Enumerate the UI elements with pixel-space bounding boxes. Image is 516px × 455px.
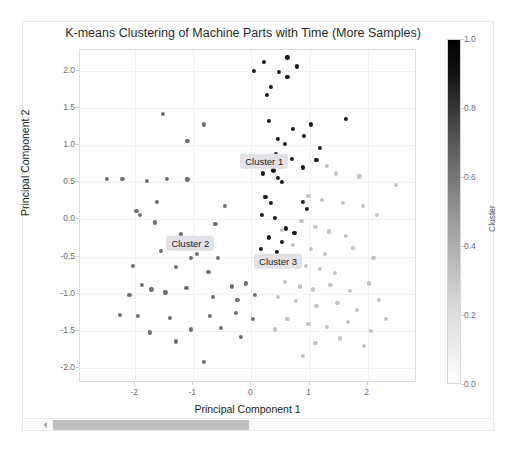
- scrollbar-thumb[interactable]: [53, 420, 249, 430]
- x-axis-label: Principal Component 1: [79, 403, 416, 415]
- colorbar-tick-mark: [461, 177, 464, 178]
- y-tick-label: -2.0: [39, 362, 79, 372]
- y-tick-label: 0.0: [39, 213, 79, 223]
- scatter-plot-axes: Cluster 1Cluster 2Cluster 3: [79, 49, 416, 382]
- scatter-point: [309, 247, 313, 251]
- scatter-point: [263, 195, 267, 199]
- scatter-point: [118, 313, 122, 317]
- scatter-point: [244, 281, 248, 285]
- gridline-horizontal: [80, 145, 415, 146]
- cluster-annotation-2: Cluster 2: [166, 236, 214, 251]
- scatter-point: [393, 183, 397, 187]
- scatter-point: [164, 176, 168, 180]
- scatter-point: [291, 127, 295, 131]
- scatter-point: [267, 235, 271, 239]
- scatter-point: [261, 171, 265, 175]
- y-tick-label: 2.0: [39, 65, 79, 75]
- scatter-point: [276, 137, 280, 141]
- y-axis-label: Principal Component 2: [19, 110, 31, 216]
- y-tick-mark: [76, 107, 79, 108]
- scatter-point: [148, 330, 152, 334]
- scatter-point: [300, 354, 304, 358]
- scatter-point: [284, 226, 288, 230]
- scatter-point: [250, 317, 254, 321]
- y-tick-label: 1.5: [39, 102, 79, 112]
- colorbar-tick-mark: [461, 246, 464, 247]
- scatter-point: [134, 208, 138, 212]
- scatter-point: [355, 308, 359, 312]
- x-tick-mark: [367, 382, 368, 385]
- colorbar-tick-mark: [461, 384, 464, 385]
- clipped-top-text-strip: [0, 0, 516, 10]
- chart-card: K-means Clustering of Machine Parts with…: [22, 21, 494, 431]
- scatter-point: [343, 234, 347, 238]
- scatter-point: [195, 252, 199, 256]
- scatter-point: [357, 174, 361, 178]
- x-tick-label: -2: [130, 387, 138, 397]
- scroll-left-arrow-icon[interactable]: [43, 422, 47, 428]
- scatter-point: [127, 293, 131, 297]
- scatter-point: [280, 240, 284, 244]
- scatter-point: [202, 122, 206, 126]
- scatter-point: [174, 265, 178, 269]
- y-tick-mark: [76, 293, 79, 294]
- colorbar-tick-label: 0.8: [464, 103, 476, 113]
- colorbar-tick-mark: [461, 108, 464, 109]
- y-tick-label: -1.5: [39, 325, 79, 335]
- scatter-point: [285, 317, 289, 321]
- scatter-point: [313, 225, 317, 229]
- scatter-point: [216, 256, 220, 260]
- horizontal-scrollbar[interactable]: [22, 418, 494, 431]
- scatter-point: [302, 134, 306, 138]
- y-tick-label: 1.0: [39, 139, 79, 149]
- x-tick-mark: [309, 382, 310, 385]
- scatter-point: [377, 298, 381, 302]
- scatter-point: [348, 289, 352, 293]
- scatter-point: [325, 324, 329, 328]
- scatter-point: [155, 200, 159, 204]
- scatter-point: [264, 93, 268, 97]
- scatter-point: [292, 231, 296, 235]
- x-tick-mark: [192, 382, 193, 385]
- colorbar-gradient: [447, 39, 461, 384]
- colorbar-tick-label: 1.0: [464, 34, 476, 44]
- scatter-point: [202, 360, 206, 364]
- scatter-point: [328, 283, 332, 287]
- scatter-point: [335, 301, 339, 305]
- scatter-point: [325, 164, 329, 168]
- y-tick-mark: [76, 330, 79, 331]
- scatter-point: [234, 311, 238, 315]
- scatter-point: [346, 320, 350, 324]
- y-tick-mark: [76, 367, 79, 368]
- gridline-horizontal: [80, 257, 415, 258]
- gridline-horizontal: [80, 108, 415, 109]
- scatter-point: [295, 64, 299, 68]
- colorbar-tick-mark: [461, 315, 464, 316]
- scatter-point: [259, 247, 263, 251]
- x-tick-mark: [250, 382, 251, 385]
- y-tick-mark: [76, 256, 79, 257]
- scatter-point: [327, 229, 331, 233]
- scatter-point: [185, 139, 189, 143]
- y-tick-mark: [76, 70, 79, 71]
- scatter-point: [211, 295, 215, 299]
- scatter-point: [252, 69, 256, 73]
- scatter-point: [276, 176, 280, 180]
- scatter-point: [350, 246, 354, 250]
- x-tick-label: 2: [364, 387, 369, 397]
- scatter-point: [185, 177, 189, 181]
- scatter-point: [341, 201, 345, 205]
- scatter-point: [285, 55, 289, 59]
- scatter-point: [280, 228, 284, 232]
- scatter-point: [371, 256, 375, 260]
- colorbar-tick-label: 0.2: [464, 310, 476, 320]
- scatter-point: [267, 119, 271, 123]
- x-tick-mark: [134, 382, 135, 385]
- scatter-point: [207, 314, 211, 318]
- scatter-point: [304, 263, 308, 267]
- scatter-point: [384, 317, 388, 321]
- scatter-point: [375, 213, 379, 217]
- scatter-point: [239, 335, 243, 339]
- scatter-point: [230, 284, 234, 288]
- x-tick-label: -1: [189, 387, 197, 397]
